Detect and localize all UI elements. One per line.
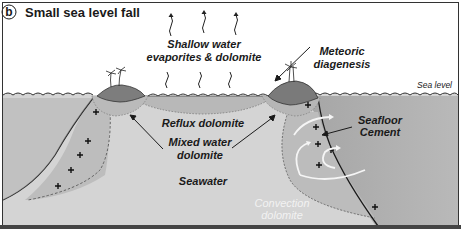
label-mixed-water: Mixed water <box>169 136 233 148</box>
label-cement: Cement <box>360 126 402 138</box>
label-convection-dolomite: dolomite <box>261 209 303 221</box>
label-evaporites: evaporites & dolomite <box>147 51 262 63</box>
label-reflux-dolomite: Reflux dolomite <box>162 117 245 129</box>
label-convection: Convection <box>254 197 309 209</box>
label-mixed-dolomite: dolomite <box>177 149 223 161</box>
label-meteoric: Meteoric <box>319 45 364 57</box>
panel-letter: b <box>5 5 12 19</box>
label-sea-level: Sea level <box>417 80 453 90</box>
label-seawater: Seawater <box>179 175 228 187</box>
carbonate-platform-diagram: b Small sea level fall Shallow water eva… <box>0 0 461 229</box>
label-diagenesis: diagenesis <box>314 58 371 70</box>
label-seafloor: Seafloor <box>358 114 403 126</box>
diagram-frame: b Small sea level fall Shallow water eva… <box>0 0 461 229</box>
panel-title: Small sea level fall <box>25 5 140 20</box>
label-shallow-water: Shallow water <box>167 38 241 50</box>
bottom-border <box>0 225 461 229</box>
